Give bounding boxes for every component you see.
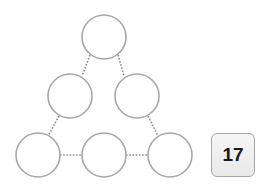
node-bottom-middle[interactable] xyxy=(82,133,126,177)
edge-middle-right-bottom-right xyxy=(148,116,158,136)
edge-top-middle-left xyxy=(82,55,90,76)
node-middle-left[interactable] xyxy=(48,74,92,118)
node-bottom-left[interactable] xyxy=(16,133,60,177)
node-top[interactable] xyxy=(82,15,126,59)
node-bottom-right[interactable] xyxy=(148,133,192,177)
node-middle-right[interactable] xyxy=(115,74,159,118)
target-sum-box: 17 xyxy=(211,133,255,177)
edge-middle-left-bottom-left xyxy=(48,116,59,136)
edge-top-middle-right xyxy=(118,55,124,76)
target-sum-value: 17 xyxy=(222,144,243,166)
